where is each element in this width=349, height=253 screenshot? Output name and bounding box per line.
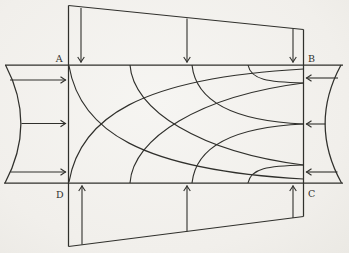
corner-label-d: D [56,189,64,200]
corner-label-c: C [308,188,316,199]
trajectory-rising-4 [248,165,304,183]
corner-label-a: A [55,53,63,64]
trajectory-rising-1 [69,69,304,182]
bottom-load-slant-edge [69,217,304,247]
trajectory-falling-4 [248,65,304,83]
right-load-concave-boundary [325,65,341,183]
stress-trajectory-diagram: ABDC [0,0,349,253]
scanned-figure-page: ABDC [0,0,349,253]
corner-label-b: B [308,53,315,64]
trajectory-falling-1 [69,66,304,179]
trajectory-rising-2 [130,83,304,183]
top-load-slant-edge [69,6,304,30]
trajectory-falling-2 [130,65,304,165]
left-load-concave-boundary [5,65,21,183]
